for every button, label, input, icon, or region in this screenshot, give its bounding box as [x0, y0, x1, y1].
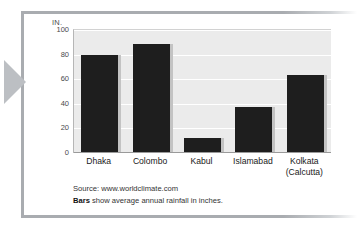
x-axis-label-line: Kolkata [279, 156, 330, 167]
figure-border-bottom [21, 215, 357, 218]
caption-line: Bars show average annual rainfall in inc… [73, 195, 351, 207]
y-axis-tick-label: 0 [33, 148, 69, 157]
bar [287, 75, 324, 152]
caption-text: show average annual rainfall in inches. [90, 196, 223, 205]
bar [81, 55, 118, 152]
x-axis-label: Colombo [124, 156, 175, 167]
figure-footer: Source: www.worldclimate.com Bars show a… [73, 183, 351, 207]
x-axis-label: Dhaka [73, 156, 124, 167]
x-axis-label: Kolkata(Calcutta) [279, 156, 330, 178]
y-axis-tick-label: 80 [33, 49, 69, 58]
bar [235, 107, 272, 153]
x-axis-label: Kabul [176, 156, 227, 167]
y-axis-tick-label: 100 [33, 25, 69, 34]
figure-border-left [21, 11, 24, 218]
x-axis-label-line: Kabul [176, 156, 227, 167]
chart-figure: IN. 020406080100 DhakaColomboKabulIslama… [21, 11, 357, 218]
bar [133, 44, 170, 152]
x-axis-label-line: Dhaka [73, 156, 124, 167]
y-axis-tick-label: 20 [33, 123, 69, 132]
source-line: Source: www.worldclimate.com [73, 183, 351, 195]
x-axis-label: Islamabad [227, 156, 278, 167]
x-axis-label-line: Islamabad [227, 156, 278, 167]
left-pointer-triangle-icon [4, 60, 26, 104]
figure-border-top [21, 11, 357, 14]
x-axis-label-line: Colombo [124, 156, 175, 167]
x-axis-label-line: (Calcutta) [279, 167, 330, 178]
gridline [74, 30, 331, 31]
y-axis-tick-label: 40 [33, 98, 69, 107]
caption-keyword: Bars [73, 196, 90, 205]
y-axis-tick-label: 60 [33, 74, 69, 83]
plot-area [73, 29, 331, 153]
bar [184, 138, 221, 152]
x-axis-line [74, 152, 331, 153]
y-axis-ticks: 020406080100 [31, 29, 69, 153]
